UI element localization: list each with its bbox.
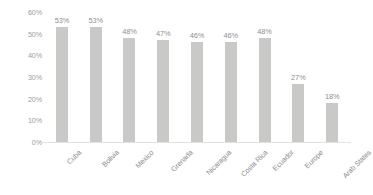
bar-series: 53%53%48%47%46%46%48%27%18% xyxy=(45,12,349,142)
x-axis-slot: Bolivia xyxy=(79,145,113,193)
bar-value-label: 18% xyxy=(325,92,340,101)
x-axis-slot: Nicaragua xyxy=(180,145,214,193)
plot-area: 53%53%48%47%46%46%48%27%18% xyxy=(45,12,349,142)
bar-slot: 48% xyxy=(248,12,282,142)
bar-slot: 53% xyxy=(79,12,113,142)
bar[interactable]: 48% xyxy=(259,38,271,142)
x-axis: CubaBoliviaMexicoGrenadaNicaraguaCosta R… xyxy=(45,145,349,193)
bar-value-label: 48% xyxy=(122,27,137,36)
x-axis-slot: Cuba xyxy=(45,145,79,193)
x-axis-slot: Europe xyxy=(281,145,315,193)
bar-slot: 48% xyxy=(113,12,147,142)
y-axis-tick-label: 40% xyxy=(28,51,42,60)
bar-slot: 46% xyxy=(214,12,248,142)
y-axis-tick-label: 30% xyxy=(28,73,42,82)
x-axis-slot: Arab States xyxy=(315,145,349,193)
bar-value-label: 27% xyxy=(291,73,306,82)
bar[interactable]: 48% xyxy=(123,38,135,142)
bar[interactable]: 53% xyxy=(56,27,68,142)
bar-value-label: 46% xyxy=(224,31,239,40)
bar[interactable]: 53% xyxy=(90,27,102,142)
x-axis-slot: Mexico xyxy=(113,145,147,193)
y-axis-tick-label: 60% xyxy=(28,8,42,17)
bar[interactable]: 46% xyxy=(191,42,203,142)
bar-slot: 27% xyxy=(281,12,315,142)
bar-value-label: 53% xyxy=(88,16,103,25)
x-axis-baseline xyxy=(42,142,351,143)
x-axis-category-label: Arab States xyxy=(341,148,373,180)
x-axis-slot: Costa Rica xyxy=(214,145,248,193)
bar-slot: 46% xyxy=(180,12,214,142)
bar-slot: 18% xyxy=(315,12,349,142)
bar-value-label: 48% xyxy=(257,27,272,36)
bar-slot: 47% xyxy=(146,12,180,142)
y-axis-tick-label: 20% xyxy=(28,94,42,103)
bar[interactable]: 18% xyxy=(326,103,338,142)
bar[interactable]: 47% xyxy=(157,40,169,142)
x-axis-slot: Ecuador xyxy=(248,145,282,193)
x-axis-slot: Grenada xyxy=(146,145,180,193)
y-axis-tick-label: 50% xyxy=(28,29,42,38)
bar[interactable]: 27% xyxy=(292,84,304,143)
bar-value-label: 46% xyxy=(190,31,205,40)
y-axis: 0%10%20%30%40%50%60% xyxy=(16,12,42,142)
bar-value-label: 47% xyxy=(156,29,171,38)
y-axis-tick-label: 0% xyxy=(32,138,42,147)
bar-value-label: 53% xyxy=(55,16,70,25)
bar-slot: 53% xyxy=(45,12,79,142)
bar[interactable]: 46% xyxy=(225,42,237,142)
y-axis-tick-label: 10% xyxy=(28,116,42,125)
